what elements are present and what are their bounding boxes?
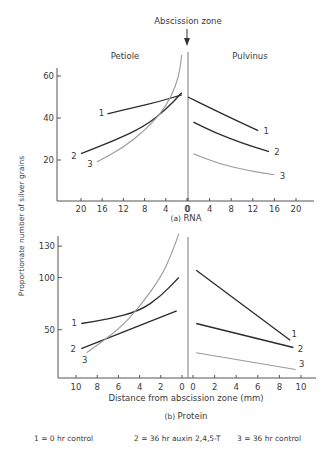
series-3-pulvinus-line — [196, 353, 295, 370]
series-2-pulvinus-line — [196, 324, 293, 348]
x-tick-label: 10 — [71, 382, 82, 392]
series-3-petiole-label: 3 — [87, 159, 92, 169]
x-axis-label: Distance from abscission zone (mm) — [108, 393, 263, 403]
series-2-petiole-line — [81, 311, 176, 349]
series-1-pulvinus-line — [196, 270, 290, 340]
series-2-pulvinus-line — [193, 122, 269, 151]
series-3-petiole-label: 3 — [82, 355, 87, 365]
series-2-petiole-line — [81, 93, 182, 154]
series-3-pulvinus-label: 3 — [299, 359, 304, 369]
x-tick-label: 0 — [190, 382, 195, 392]
x-tick-label: 6 — [255, 382, 260, 392]
x-tick-label: 12 — [118, 204, 129, 214]
x-tick-label: 2 — [158, 382, 163, 392]
x-tick-label: 16 — [97, 204, 108, 214]
x-tick-label: 16 — [269, 204, 280, 214]
legend: 1 = 0 hr control 2 = 36 hr auxin 2,4,5-T… — [34, 434, 301, 443]
panel-a-rna: 204060 201612840048121620 112233 (a) RNA — [43, 52, 314, 223]
x-tick-label: 4 — [137, 382, 142, 392]
series-1-petiole-label: 1 — [99, 108, 104, 118]
series-2-petiole-label: 2 — [71, 344, 76, 354]
panel-b-protein: 50100130 10864200246810 112233 Distance … — [39, 234, 316, 421]
series-3-pulvinus-line — [193, 154, 274, 175]
x-tick-label: 0 — [179, 382, 184, 392]
legend-item-2: 2 = 36 hr auxin 2,4,5-T — [134, 434, 221, 443]
x-tick-label: 8 — [142, 204, 147, 214]
series-1-petiole-label: 1 — [72, 318, 77, 328]
y-tick-label: 50 — [44, 325, 55, 335]
abscission-arrow-icon — [184, 29, 190, 46]
x-tick-label: 8 — [228, 204, 233, 214]
legend-item-3: 3 = 36 hr control — [237, 434, 301, 443]
legend-item-1: 1 = 0 hr control — [34, 434, 93, 443]
abscission-zone-label: Abscission zone — [154, 16, 221, 26]
series-1-pulvinus-label: 1 — [263, 126, 268, 136]
series-2-pulvinus-label: 2 — [274, 147, 279, 157]
series-1-pulvinus-label: 1 — [291, 329, 296, 339]
x-tick-label: 12 — [247, 204, 258, 214]
series-3-petiole-line — [97, 55, 182, 162]
series-1-pulvinus-line — [188, 97, 258, 131]
x-tick-label: 20 — [291, 204, 302, 214]
y-tick-label: 20 — [43, 155, 54, 165]
x-tick-label: 10 — [296, 382, 307, 392]
x-tick-label: 8 — [277, 382, 282, 392]
y-tick-label: 100 — [39, 273, 55, 283]
x-tick-label: 2 — [212, 382, 217, 392]
series-3-petiole-line — [87, 234, 179, 353]
region-label-petiole: Petiole — [111, 51, 140, 61]
y-tick-label: 40 — [43, 113, 54, 123]
x-tick-label: 8 — [94, 382, 99, 392]
figure: Abscission zone Petiole Pulvinus Proport… — [0, 0, 333, 455]
y-tick-label: 130 — [39, 241, 55, 251]
panel-b-caption: (b) Protein — [165, 411, 208, 421]
series-3-pulvinus-label: 3 — [280, 171, 285, 181]
series-2-pulvinus-label: 2 — [298, 344, 303, 354]
y-tick-label: 60 — [43, 71, 54, 81]
region-label-pulvinus: Pulvinus — [232, 51, 268, 61]
series-2-petiole-label: 2 — [71, 151, 76, 161]
x-tick-label: 6 — [116, 382, 121, 392]
x-tick-label: 4 — [233, 382, 238, 392]
x-tick-label: 4 — [207, 204, 212, 214]
panel-a-caption: (a) RNA — [171, 213, 202, 223]
y-axis-label: Proportionate number of silver grains — [17, 156, 26, 296]
x-tick-label: 20 — [76, 204, 87, 214]
x-tick-label: 4 — [163, 204, 168, 214]
